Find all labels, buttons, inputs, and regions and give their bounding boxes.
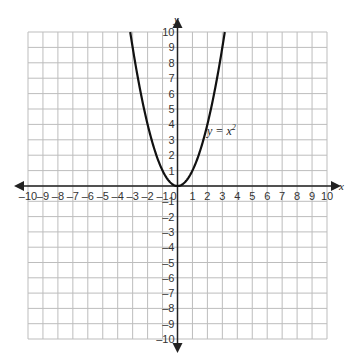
x-axis-label: x [338,180,344,192]
svg-text:7: 7 [279,190,285,202]
svg-text:–2: –2 [141,190,153,202]
svg-text:–3: –3 [162,226,174,238]
svg-text:5: 5 [249,190,255,202]
svg-text:–8: –8 [52,190,64,202]
curve-label: y = x2 [206,123,236,138]
svg-text:10: 10 [321,190,333,202]
svg-text:8: 8 [168,57,174,69]
svg-text:8: 8 [294,190,300,202]
svg-text:–6: –6 [162,272,174,284]
svg-text:4: 4 [168,118,174,130]
svg-text:–2: –2 [162,211,174,223]
svg-text:–10: –10 [156,333,174,345]
svg-text:3: 3 [168,134,174,146]
svg-text:1: 1 [189,190,195,202]
svg-text:–8: –8 [162,302,174,314]
svg-text:–5: –5 [97,190,109,202]
svg-text:–5: –5 [162,257,174,269]
svg-text:–6: –6 [82,190,94,202]
svg-text:5: 5 [168,103,174,115]
svg-text:–3: –3 [127,190,139,202]
svg-text:–9: –9 [37,190,49,202]
y-axis-label: y [173,13,179,25]
svg-text:2: 2 [204,190,210,202]
svg-text:6: 6 [168,88,174,100]
svg-text:3: 3 [219,190,225,202]
svg-text:9: 9 [309,190,315,202]
svg-text:9: 9 [168,41,174,53]
parabola-chart: –10–9–8–7–6–5–4–3–2–1012345678910–10–9–8… [0,0,357,364]
svg-text:–7: –7 [162,287,174,299]
svg-text:10: 10 [162,26,174,38]
svg-text:–10: –10 [19,190,37,202]
svg-text:–4: –4 [162,241,174,253]
svg-text:2: 2 [168,149,174,161]
svg-text:–7: –7 [67,190,79,202]
svg-text:4: 4 [234,190,240,202]
svg-text:–1: –1 [162,195,174,207]
svg-text:–4: –4 [112,190,124,202]
svg-text:7: 7 [168,72,174,84]
svg-text:6: 6 [264,190,270,202]
svg-text:1: 1 [168,165,174,177]
svg-text:–9: –9 [162,318,174,330]
